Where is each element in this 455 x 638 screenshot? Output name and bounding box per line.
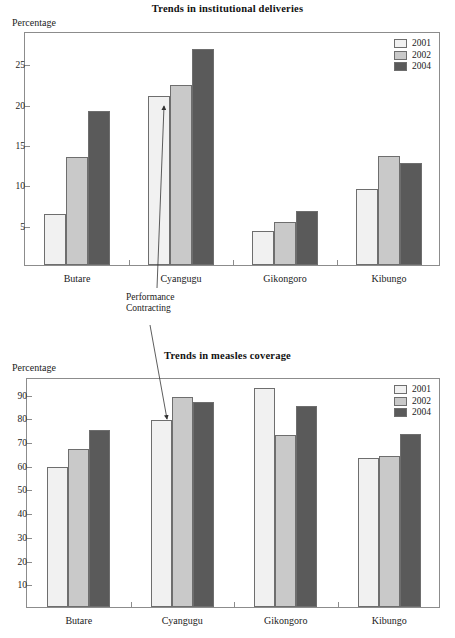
bar-gikongoro-2001 [252,231,274,265]
bottom-ytick-mark-60 [27,467,32,468]
y-axis-unit-label-top: Percentage [12,17,56,28]
top-xtick-mark-1 [129,260,130,265]
bar-cyangugu-2001 [148,96,170,265]
bottom-ytick-label-10: 10 [5,580,27,590]
bar-butare-2002 [68,449,89,607]
annotation-line-1: Performance [126,292,175,303]
legend-swatch-2004-icon [394,62,407,71]
bottom-ytick-mark-10 [27,585,32,586]
bottom-ytick-label-70: 70 [5,438,27,448]
bottom-ytick-label-30: 30 [5,533,27,543]
bottom-ytick-mark-20 [27,562,32,563]
bottom-ytick-label-80: 80 [5,414,27,424]
top-ytick-label-5: 5 [3,222,25,232]
top-xtick-mark-2 [233,260,234,265]
bottom-legend-item-2002[interactable]: 2002 [394,397,431,407]
top-legend-item-2001[interactable]: 2001 [394,39,431,49]
top-legend-label-2001: 2001 [412,39,431,49]
bottom-ytick-label-50: 50 [5,485,27,495]
bottom-xtick-mark-1 [131,602,132,607]
top-ytick-label-15: 15 [3,141,25,151]
bar-butare-2002 [66,157,88,265]
top-legend-item-2004[interactable]: 2004 [394,62,431,72]
chart-title-measles-coverage: Trends in measles coverage [0,350,455,361]
legend-swatch-2001-icon [394,39,407,48]
bar-gikongoro-2002 [275,435,296,607]
annotation-line-2: Contracting [126,303,175,314]
bottom-legend-item-2001[interactable]: 2001 [394,385,431,395]
bottom-legend-label-2004: 2004 [412,408,431,418]
legend-swatch-2002-icon [394,51,407,60]
bottom-ytick-mark-80 [27,419,32,420]
top-ytick-mark-25 [25,65,30,66]
bar-cyangugu-2004 [193,402,214,607]
bar-kibungo-2002 [379,456,400,607]
annotation-performance-contracting: Performance Contracting [126,292,175,314]
top-ytick-label-25: 25 [3,60,25,70]
bar-cyangugu-2002 [170,85,192,265]
bar-kibungo-2001 [358,458,379,607]
bar-kibungo-2002 [378,156,400,265]
bar-cyangugu-2001 [151,420,172,607]
y-axis-unit-label-bottom: Percentage [12,362,56,373]
bottom-legend-item-2004[interactable]: 2004 [394,408,431,418]
bottom-ytick-mark-70 [27,443,32,444]
bottom-legend-label-2001: 2001 [412,385,431,395]
top-xtick-label-cyangugu: Cyangugu [160,273,201,284]
bottom-legend: 200120022004 [394,385,431,418]
bottom-xtick-label-gikongoro: Gikongoro [264,615,307,626]
bottom-xtick-label-butare: Butare [65,615,92,626]
chart-title-institutional-deliveries: Trends in institutional deliveries [0,3,455,14]
top-ytick-mark-10 [25,186,30,187]
top-xtick-label-butare: Butare [64,273,91,284]
top-xtick-label-gikongoro: Gikongoro [263,273,306,284]
bar-kibungo-2004 [400,434,421,607]
top-ytick-label-10: 10 [3,181,25,191]
top-ytick-mark-15 [25,146,30,147]
legend-swatch-2002-icon [394,397,407,406]
top-ytick-label-20: 20 [3,101,25,111]
plot-area-institutional-deliveries: 510152025ButareCyanguguGikongoroKibungo2… [24,32,440,266]
top-ytick-mark-20 [25,106,30,107]
bar-gikongoro-2002 [274,222,296,265]
bar-gikongoro-2004 [296,406,317,607]
bottom-ytick-mark-40 [27,514,32,515]
bar-cyangugu-2002 [172,397,193,607]
bottom-legend-label-2002: 2002 [412,397,431,407]
plot-area-measles-coverage: 102030405060708090ButareCyanguguGikongor… [26,378,440,608]
bottom-ytick-label-90: 90 [5,391,27,401]
bar-butare-2001 [47,467,68,607]
bar-gikongoro-2004 [296,211,318,265]
bottom-ytick-mark-90 [27,396,32,397]
top-legend-item-2002[interactable]: 2002 [394,51,431,61]
bar-kibungo-2004 [400,163,422,265]
chart-measles-coverage: Trends in measles coverage Percentage 10… [0,340,455,638]
bottom-xtick-mark-3 [338,602,339,607]
bar-kibungo-2001 [356,189,378,265]
bottom-xtick-mark-2 [234,602,235,607]
top-legend: 200120022004 [394,39,431,72]
bar-butare-2004 [89,430,110,607]
top-xtick-mark-3 [337,260,338,265]
top-ytick-mark-5 [25,227,30,228]
bottom-ytick-label-60: 60 [5,462,27,472]
bar-butare-2001 [44,214,66,265]
bar-gikongoro-2001 [254,388,275,607]
bottom-xtick-label-cyangugu: Cyangugu [162,615,203,626]
bottom-ytick-mark-30 [27,538,32,539]
top-legend-label-2004: 2004 [412,62,431,72]
bottom-ytick-label-20: 20 [5,557,27,567]
chart-institutional-deliveries: Trends in institutional deliveries Perce… [0,0,455,340]
legend-swatch-2001-icon [394,385,407,394]
bottom-xtick-label-kibungo: Kibungo [372,615,407,626]
bottom-ytick-label-40: 40 [5,509,27,519]
bottom-ytick-mark-50 [27,490,32,491]
bar-cyangugu-2004 [192,49,214,265]
top-legend-label-2002: 2002 [412,51,431,61]
top-xtick-label-kibungo: Kibungo [372,273,407,284]
bar-butare-2004 [88,111,110,265]
legend-swatch-2004-icon [394,408,407,417]
